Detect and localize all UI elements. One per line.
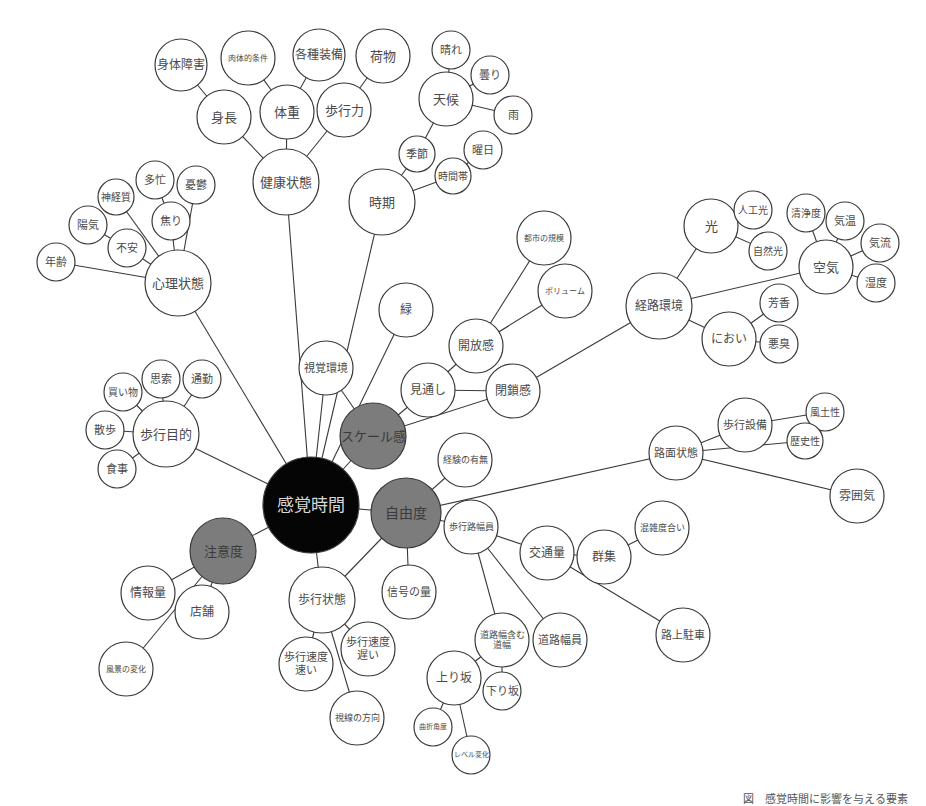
node-label: 晴れ (440, 44, 462, 57)
node-freedom: 自由度 (371, 478, 441, 548)
node-label: 曇り (479, 69, 501, 82)
node-label: 気流 (869, 236, 891, 250)
node-traffic: 交通量 (520, 526, 574, 580)
node-weight: 体重 (260, 85, 314, 139)
node-level: レベル変化 (452, 736, 490, 774)
node-bend: 曲折角度 (414, 708, 452, 746)
node-label: 自然光 (753, 245, 783, 257)
node-melancholy: 憂鬱 (177, 166, 215, 204)
node-timeofday: 時間帯 (435, 158, 471, 194)
node-label: 緑 (400, 302, 412, 317)
node-label: 雨 (508, 109, 519, 122)
node-attention: 注意度 (190, 518, 256, 584)
node-humidity: 湿度 (857, 264, 895, 302)
node-label: 上り坂 (436, 671, 472, 685)
node-green: 緑 (379, 283, 433, 337)
node-label: 体重 (274, 105, 300, 120)
node-label: 歩行速度 (284, 650, 328, 664)
node-label: 道路幅含む (480, 629, 525, 640)
node-roadincl: 道路幅含む道幅 (475, 613, 529, 667)
node-sunny: 晴れ (432, 31, 470, 69)
node-artlight: 人工光 (734, 191, 772, 229)
node-label: 路面状態 (654, 446, 698, 460)
node-purpose: 歩行目的 (133, 401, 199, 467)
node-label: 視線の方向 (335, 712, 380, 723)
node-parking: 路上駐車 (656, 608, 710, 662)
node-label: 自由度 (385, 505, 427, 521)
node-label: 空気 (813, 260, 839, 275)
node-label: 光 (705, 219, 718, 234)
node-air: 空気 (799, 240, 853, 294)
node-prospect: 見通し (401, 363, 455, 417)
node-label: 歩行目的 (140, 427, 192, 442)
node-label: 下り坂 (486, 685, 519, 698)
node-citysize: 都市の規模 (517, 211, 571, 265)
node-label: 風土性 (810, 406, 840, 418)
node-label: 注意度 (204, 544, 243, 559)
node-speedslow: 歩行速度遅い (341, 622, 395, 676)
node-label: 曜日 (472, 144, 494, 157)
node-label: 健康状態 (260, 175, 312, 190)
node-label: 速い (295, 664, 317, 677)
node-uphill: 上り坂 (427, 651, 481, 705)
node-label: 雰囲気 (839, 488, 875, 503)
node-label: レベル変化 (454, 750, 489, 759)
node-label: 季節 (406, 147, 428, 161)
node-walkfac: 歩行設備 (718, 398, 772, 452)
node-label: 曲折角度 (419, 722, 447, 731)
node-label: 風景の変化 (106, 664, 146, 674)
node-cargo: 荷物 (356, 29, 410, 83)
node-signals: 信号の量 (382, 565, 436, 619)
node-label: 情報量 (130, 586, 166, 600)
node-label: 各種装備 (295, 47, 343, 62)
node-label: 思索 (150, 372, 172, 386)
node-label: 信号の量 (387, 586, 431, 599)
node-label: 時期 (369, 195, 395, 210)
node-odor: 悪臭 (760, 325, 798, 363)
node-label: 路上駐車 (661, 628, 705, 642)
node-label: 食事 (106, 462, 128, 476)
node-label: 混雑度合い (640, 522, 685, 533)
node-label: 陽気 (77, 218, 99, 232)
node-period: 時期 (349, 169, 415, 235)
node-physcond: 肉体的条件 (221, 31, 275, 85)
node-aroma: 芳香 (760, 284, 798, 322)
node-label: 年齢 (45, 255, 67, 269)
node-light: 光 (684, 199, 738, 253)
node-walkstate: 歩行状態 (289, 567, 355, 633)
node-shopping: 買い物 (104, 373, 142, 411)
node-label: 心理状態 (152, 276, 204, 291)
node-scale: スケール感 (340, 403, 406, 469)
node-temp: 気温 (826, 202, 864, 240)
node-label: 身体障害 (157, 57, 205, 72)
node-label: スケール感 (341, 429, 406, 444)
node-gaze: 視線の方向 (330, 691, 384, 745)
node-label: 時間帯 (438, 170, 468, 182)
node-age: 年齢 (37, 243, 75, 281)
node-cloudy: 曇り (471, 56, 509, 94)
node-walkpower: 歩行力 (317, 83, 371, 137)
node-thinking: 思索 (142, 360, 180, 398)
node-info: 情報量 (121, 566, 175, 620)
node-label: 気温 (834, 214, 856, 228)
node-congestion: 混雑度合い (635, 501, 689, 555)
node-label: 身長 (211, 110, 237, 125)
node-layer: 感覚時間スケール感自由度注意度健康状態身長身体障害肉体的条件体重各種装備歩行力荷… (37, 29, 899, 774)
node-label: 肉体的条件 (228, 53, 268, 63)
node-label: 歩行力 (325, 103, 364, 118)
node-visual: 視覚環境 (299, 341, 353, 395)
edge-surface-atmosphere (676, 453, 857, 496)
node-natlight: 自然光 (749, 232, 787, 270)
node-label: 店舗 (190, 605, 214, 619)
node-volume: ボリューム (538, 264, 592, 318)
node-impatience: 焦り (152, 202, 190, 240)
node-label: 感覚時間 (277, 495, 345, 515)
node-label: 視覚環境 (304, 361, 348, 375)
node-anxiety: 不安 (108, 229, 146, 267)
node-roadwidth: 道路幅員 (533, 613, 587, 667)
node-label: におい (711, 332, 747, 346)
node-label: 多忙 (144, 173, 166, 187)
node-label: 遅い (357, 649, 379, 662)
node-label: 湿度 (865, 276, 887, 290)
